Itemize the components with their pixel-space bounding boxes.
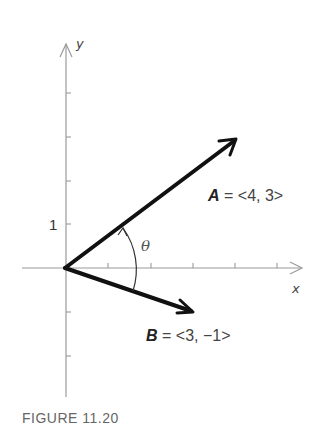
vector-b-equals: = <box>162 327 171 344</box>
vector-a-components: <4, 3> <box>238 187 283 204</box>
x-ticks <box>108 263 277 268</box>
angle-theta-label: θ <box>141 237 150 255</box>
vector-b-label: B = <3, −1> <box>146 327 231 345</box>
y-ticks <box>66 93 71 356</box>
y-axis-label: y <box>76 36 84 51</box>
angle-arc <box>123 228 136 291</box>
vector-b-components: <3, −1> <box>176 327 231 344</box>
vector-b <box>65 268 191 311</box>
vector-b-name: B <box>146 327 158 344</box>
vector-a-name: A <box>208 187 220 204</box>
x-axis-label: x <box>292 281 300 296</box>
vector-a-label: A = <4, 3> <box>208 187 283 205</box>
y-tick-label-1: 1 <box>49 216 57 233</box>
figure-caption: FIGURE 11.20 <box>22 410 119 426</box>
vector-a-equals: = <box>224 187 233 204</box>
